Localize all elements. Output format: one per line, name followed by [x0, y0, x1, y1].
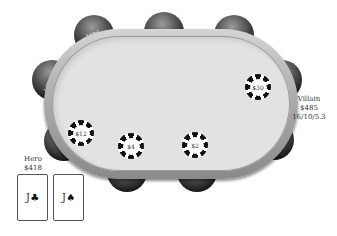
hero-info: Hero $418	[18, 155, 48, 173]
villain-stats: 16/10/5.3	[284, 113, 334, 122]
spade-icon: ♠	[66, 192, 75, 203]
hero-card-2: J♠	[53, 174, 84, 221]
bet-amount: $30	[252, 84, 263, 91]
bet-amount: $12	[75, 130, 86, 137]
villain-name: Villain	[284, 95, 334, 104]
bet-chip-sb: $2	[182, 132, 208, 158]
villain-info: Villain $485 16/10/5.3	[284, 95, 334, 122]
bet-chip-utg: $12	[68, 120, 94, 146]
bet-amount: $2	[191, 142, 199, 149]
poker-table	[44, 29, 298, 179]
bet-chip-bb: $4	[118, 133, 144, 159]
hero-stack: $418	[18, 164, 48, 173]
bet-chip-co: $30	[245, 74, 271, 100]
villain-stack: $485	[284, 104, 334, 113]
hero-card-1: J♣	[17, 174, 48, 221]
hero-name: Hero	[18, 155, 48, 164]
bet-amount: $4	[127, 143, 135, 150]
table-felt	[52, 36, 290, 171]
club-icon: ♣	[30, 192, 39, 203]
